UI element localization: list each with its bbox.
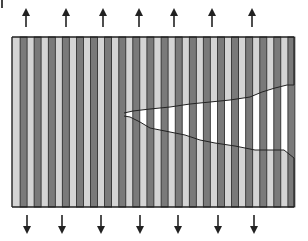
fiber [246,37,253,207]
fiber [91,37,98,207]
fiber [161,37,168,207]
tensile-arrows-top [26,12,252,27]
fiber [147,37,154,207]
fiber [260,37,267,207]
fiber [20,37,27,207]
fiber [77,37,84,207]
fiber [175,37,182,207]
fiber [203,37,210,207]
fiber [133,37,140,207]
composite-specimen [12,37,295,207]
composite-diagram [0,0,308,241]
fiber [189,37,196,207]
fiber [62,37,69,207]
fiber [274,37,281,207]
fiber [48,37,55,207]
tensile-arrows-bottom [27,215,254,230]
fiber [34,37,41,207]
fiber [232,37,239,207]
fiber [218,37,225,207]
fiber [105,37,112,207]
fiber [119,37,126,207]
